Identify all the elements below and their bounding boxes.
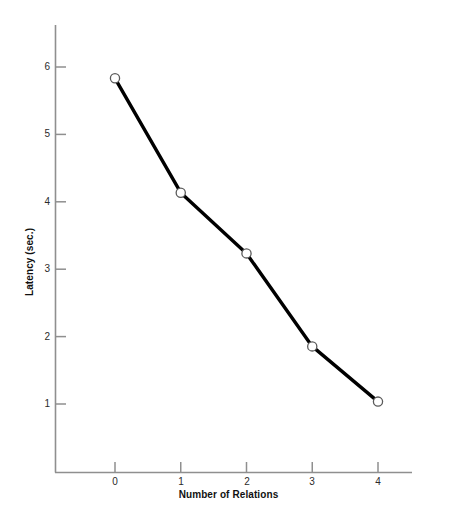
x-tick-label-2: 2 [235, 476, 259, 487]
axes-group [55, 25, 412, 473]
y-tick-label-5: 5 [28, 128, 50, 139]
y-axis-title: Latency (sec.) [24, 228, 35, 296]
data-point-marker [308, 342, 317, 351]
x-tick-label-1: 1 [169, 476, 193, 487]
data-point-marker [373, 397, 382, 406]
series-line [115, 78, 378, 401]
data-series-latency [110, 74, 382, 407]
data-point-marker [110, 74, 119, 83]
x-tick-label-0: 0 [103, 476, 127, 487]
y-axis-ticks [56, 67, 67, 404]
line-chart-plot [0, 0, 457, 524]
data-point-marker [242, 249, 251, 258]
chart-figure: 6 5 4 3 2 1 0 1 2 3 4 Number of Relation… [0, 0, 457, 524]
y-tick-label-2: 2 [28, 331, 50, 342]
x-axis-title: Number of Relations [0, 489, 457, 500]
y-tick-label-6: 6 [28, 61, 50, 72]
x-tick-label-4: 4 [366, 476, 390, 487]
y-tick-label-4: 4 [28, 196, 50, 207]
x-tick-label-3: 3 [300, 476, 324, 487]
data-point-marker [176, 188, 185, 197]
x-axis-ticks [115, 462, 378, 473]
y-tick-label-1: 1 [28, 398, 50, 409]
